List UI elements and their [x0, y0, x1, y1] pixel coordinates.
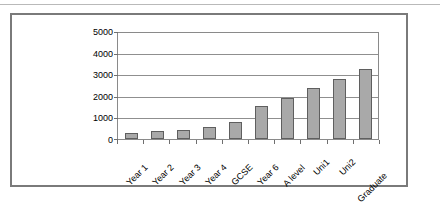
bar[interactable]: [151, 131, 164, 139]
bar[interactable]: [229, 122, 242, 139]
y-tick-label: 3000: [69, 71, 113, 80]
bar-slot: [352, 32, 378, 139]
bar[interactable]: [255, 106, 268, 139]
bar[interactable]: [177, 130, 190, 139]
bar-slot: [118, 32, 144, 139]
y-tick-label: 2000: [69, 93, 113, 102]
x-tick-label: A level: [281, 163, 307, 189]
x-tick-label: Year 3: [177, 162, 202, 187]
x-tick-label: Uni2: [337, 157, 357, 177]
bar-slot: [300, 32, 326, 139]
bar[interactable]: [203, 127, 216, 139]
x-tick-label: Graduate: [355, 171, 389, 202]
y-tick-label: 0: [69, 136, 113, 145]
x-tick-label: Year 2: [151, 162, 176, 187]
bar[interactable]: [281, 98, 294, 139]
x-axis-labels: Year 1Year 2Year 3Year 4GCSEYear 6A leve…: [117, 144, 379, 188]
bar[interactable]: [359, 69, 372, 139]
bar-slot: [248, 32, 274, 139]
page-top-rule: [0, 4, 440, 5]
bar-slot: [222, 32, 248, 139]
y-tick-label: 4000: [69, 50, 113, 59]
plot-area: [117, 32, 379, 140]
chart-frame: 5000 4000 3000 2000 1000 0 Year 1Year 2Y…: [10, 13, 408, 187]
x-tick-label: Year 4: [203, 162, 228, 187]
x-tick-mark: [379, 140, 380, 144]
y-tick-label: 1000: [69, 114, 113, 123]
x-tick-label: Year 1: [124, 162, 149, 187]
x-tick-label: GCSE: [229, 162, 254, 187]
x-tick-label: Year 6: [255, 162, 280, 187]
y-tick-label: 5000: [69, 28, 113, 37]
y-axis: 5000 4000 3000 2000 1000 0: [67, 32, 113, 140]
bar-slot: [196, 32, 222, 139]
bar-series: [118, 32, 378, 139]
bar-slot: [326, 32, 352, 139]
bar[interactable]: [333, 79, 346, 139]
x-tick-label: Uni1: [311, 157, 331, 177]
bar[interactable]: [307, 88, 320, 139]
bar-slot: [144, 32, 170, 139]
bar[interactable]: [125, 133, 138, 139]
bar-slot: [170, 32, 196, 139]
bar-slot: [274, 32, 300, 139]
